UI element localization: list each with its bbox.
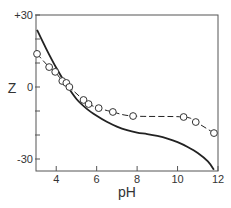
y-axis-title: Z [8, 80, 17, 96]
plot-border [36, 15, 218, 171]
data-point [192, 119, 199, 126]
x-tick-label: 10 [171, 173, 183, 185]
x-tick-label: 4 [53, 173, 59, 185]
data-point [180, 114, 187, 121]
x-axis: 4681012 [53, 166, 224, 185]
x-tick-label: 6 [94, 173, 100, 185]
data-point [52, 68, 59, 75]
data-point [109, 109, 116, 116]
data-point [34, 50, 41, 57]
series-line-measured [37, 54, 214, 133]
data-point [66, 84, 73, 91]
data-point [211, 130, 218, 137]
series-line-calculated [37, 30, 214, 170]
x-tick-label: 12 [212, 173, 224, 185]
series-group [34, 30, 218, 170]
data-point [130, 113, 137, 120]
data-point [46, 64, 53, 71]
x-axis-title: pH [118, 184, 136, 200]
data-point [85, 101, 92, 108]
data-point [95, 105, 102, 112]
y-tick-label: -30 [17, 153, 33, 165]
chart: +300-30 4681012 Z pH [0, 0, 231, 208]
plot-frame [36, 15, 218, 171]
y-tick-label: 0 [27, 81, 33, 93]
y-tick-label: +30 [14, 9, 33, 21]
